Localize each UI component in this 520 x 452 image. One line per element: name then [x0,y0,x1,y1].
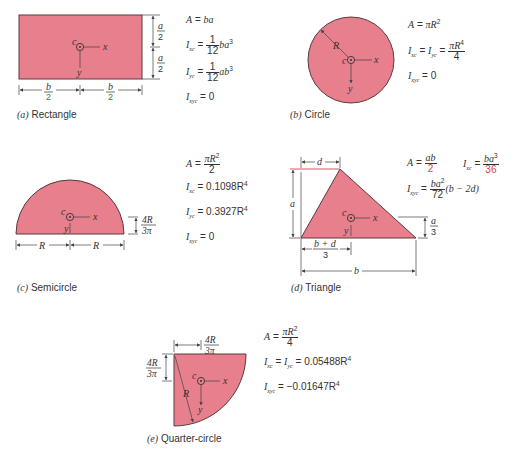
dim-b-label: b [354,265,359,276]
radius-label: R [332,40,339,51]
x-axis-label: x [222,375,228,386]
triangle-ixyc-formula: Ixyc = ba272(b − 2d) [407,178,479,200]
centroid-label: c [61,206,66,217]
y-axis-label: y [63,223,69,234]
dim-cx-num: b + d [314,238,337,249]
caption-triangle: (d) Triangle [291,282,341,293]
circle-ixc-iyc-formula: Ixc = Iyc = πR44 [408,40,465,62]
triangle-shape [301,169,416,238]
offset-num: 4R [142,215,153,225]
left-offset-num: 4R [147,358,158,368]
dim-b-num: b [46,81,51,92]
caption-semicircle: (c) Semicircle [17,282,77,293]
y-axis-label: y [347,83,353,94]
offset-den: 3π [141,226,152,236]
radius-label: R [182,388,189,399]
y-axis-label: y [76,67,82,78]
triangle-area-formula: A = ab2 [407,153,437,174]
centroid-label: c [342,207,347,218]
dim-b-den: 2 [46,92,51,102]
top-offset-den: 3π [204,346,215,356]
dim-a-num: a [158,20,163,31]
centroid-label: c [192,370,197,381]
semicircle-diagram: c x y 4R 3π R R [16,180,156,251]
quarter-ixyc-formula: Ixyc = −0.01647R4 [264,380,340,394]
semicircle-iyc-formula: Iyc = 0.3927R4 [186,205,248,219]
dim-a-den: 2 [158,32,163,42]
radius-right-label: R [92,240,99,251]
dim-b-num-2: b [108,81,113,92]
figure-canvas: c x y a 2 a 2 b 2 b 2 R [0,0,520,452]
triangle-diagram: c x y d a a 3 b + d 3 b [289,156,438,277]
circle-diagram: R c x y [308,17,394,103]
x-axis-label: x [92,211,98,222]
caption-quarter-circle: (e) Quarter-circle [147,433,221,444]
left-offset-den: 3π [146,369,157,379]
quarter-ixc-iyc-formula: Ixc = Iyc = 0.05488R4 [264,355,351,369]
dim-a-num-2: a [158,52,163,63]
centroid-label: c [342,55,347,66]
rect-area-formula: A = ba [186,14,214,25]
dim-b-den-2: 2 [108,92,113,102]
circle-area-formula: A = πR2 [408,18,440,30]
quarter-circle-diagram: R c x y 4R 3π 4R 3π [146,335,246,426]
x-axis-label: x [102,41,108,52]
dim-a3-num: a [431,215,436,226]
y-axis-label: y [343,225,349,236]
dim-a-label: a [290,198,295,209]
dim-cx-den: 3 [323,250,328,260]
y-axis-label: y [197,404,203,415]
x-axis-label: x [373,54,379,65]
centroid-label: c [72,36,77,47]
semicircle-area-formula: A = πR22 [186,153,220,175]
rectangle-diagram: c x y a 2 a 2 b 2 b 2 [19,15,165,102]
dim-a3-den: 3 [431,227,436,237]
quarter-area-formula: A = πR24 [264,326,298,348]
rect-ixc-formula: Ixc = 112ba3 [186,35,233,56]
caption-rectangle: (a) Rectangle [17,109,76,120]
caption-circle: (b) Circle [290,109,330,120]
semicircle-ixc-formula: Ixc = 0.1098R4 [186,180,248,194]
circle-ixyc-formula: Ixyc = 0 [408,70,436,83]
rect-ixyc-formula: Ixyc = 0 [186,91,214,104]
rect-iyc-formula: Iyc = 112ab3 [186,62,233,83]
semicircle-ixyc-formula: Ixyc = 0 [186,231,214,244]
x-axis-label: x [372,212,378,223]
triangle-ixc-formula: Ixc = ba336 [463,153,499,175]
dim-a-den-2: 2 [158,64,163,74]
radius-left-label: R [38,240,45,251]
top-offset-num: 4R [205,335,216,345]
